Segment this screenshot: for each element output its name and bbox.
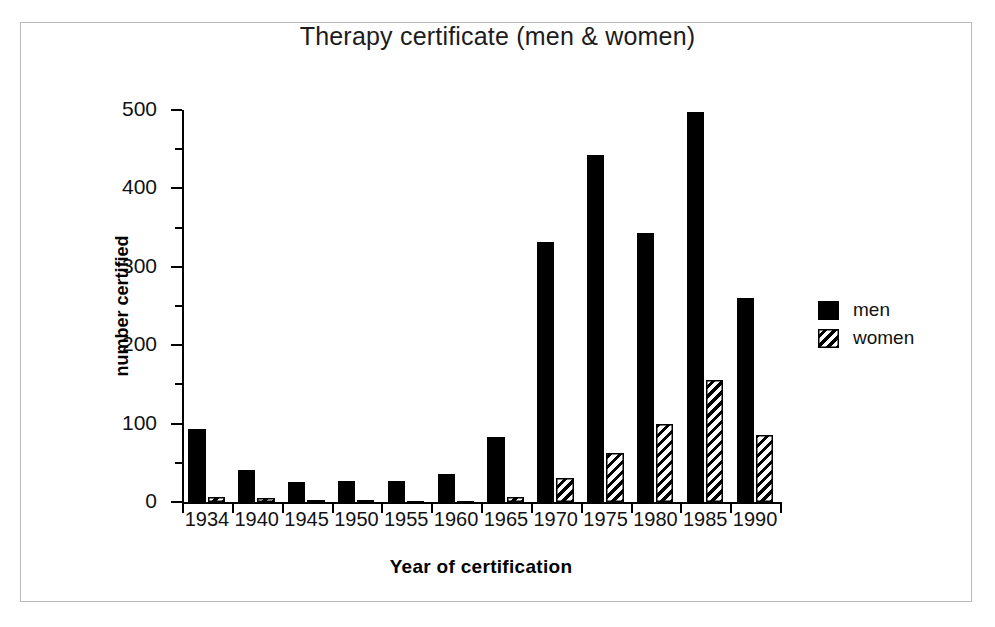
bar-women-1975[interactable] bbox=[606, 453, 623, 502]
bar-group bbox=[680, 110, 730, 502]
bar-men-1975[interactable] bbox=[587, 155, 604, 502]
bar-women-1934[interactable] bbox=[208, 497, 225, 502]
bar-women-1970[interactable] bbox=[556, 478, 573, 502]
x-axis-tick-label: 1940 bbox=[235, 508, 280, 531]
legend-swatch-women bbox=[818, 329, 839, 348]
bar-men-1980[interactable] bbox=[637, 233, 654, 502]
bar-group bbox=[581, 110, 631, 502]
y-axis-minor-tick bbox=[175, 227, 182, 229]
y-axis-tick: 200 bbox=[171, 344, 182, 346]
x-axis-tick-labels: 1934194019451950195519601965197019751980… bbox=[182, 508, 780, 534]
x-axis-tick-label: 1960 bbox=[434, 508, 479, 531]
x-axis-tick-label: 1955 bbox=[384, 508, 429, 531]
bar-women-1945[interactable] bbox=[307, 500, 324, 502]
x-axis-tick-label: 1985 bbox=[683, 508, 728, 531]
bar-group bbox=[481, 110, 531, 502]
bar-group bbox=[182, 110, 232, 502]
bar-women-1985[interactable] bbox=[706, 380, 723, 502]
x-axis-tick-label: 1975 bbox=[583, 508, 628, 531]
bar-men-1985[interactable] bbox=[687, 112, 704, 502]
bar-group bbox=[531, 110, 581, 502]
chart-title: Therapy certificate (men & women) bbox=[0, 22, 995, 51]
x-axis-tick-label: 1934 bbox=[185, 508, 230, 531]
chart-legend: menwomen bbox=[818, 296, 914, 352]
legend-entry-women[interactable]: women bbox=[818, 324, 914, 352]
x-axis-tick-label: 1970 bbox=[534, 508, 579, 531]
bar-women-1965[interactable] bbox=[507, 497, 524, 502]
bar-men-1934[interactable] bbox=[188, 429, 205, 502]
bar-men-1955[interactable] bbox=[388, 481, 405, 502]
legend-label: women bbox=[853, 327, 914, 349]
y-axis-tick: 0 bbox=[171, 501, 182, 503]
bar-group bbox=[631, 110, 681, 502]
bar-men-1940[interactable] bbox=[238, 470, 255, 502]
y-axis-tick: 500 bbox=[171, 109, 182, 111]
x-axis-tick-label: 1990 bbox=[733, 508, 778, 531]
bar-men-1965[interactable] bbox=[487, 437, 504, 502]
y-axis-minor-tick bbox=[175, 383, 182, 385]
legend-label: men bbox=[853, 299, 890, 321]
y-axis-tick: 100 bbox=[171, 423, 182, 425]
bar-men-1950[interactable] bbox=[338, 481, 355, 502]
bar-group bbox=[431, 110, 481, 502]
y-axis-minor-tick bbox=[175, 305, 182, 307]
x-axis-tick bbox=[780, 502, 782, 513]
bar-men-1970[interactable] bbox=[537, 242, 554, 502]
bar-group bbox=[232, 110, 282, 502]
y-axis-tick-label: 400 bbox=[122, 175, 157, 199]
y-axis-title: number certified bbox=[112, 235, 133, 376]
x-axis-tick-label: 1965 bbox=[484, 508, 529, 531]
bar-group bbox=[381, 110, 431, 502]
y-axis-tick: 400 bbox=[171, 187, 182, 189]
bar-men-1945[interactable] bbox=[288, 482, 305, 502]
bar-women-1960[interactable] bbox=[457, 501, 474, 503]
y-axis-tick-label: 100 bbox=[122, 410, 157, 434]
bar-women-1950[interactable] bbox=[357, 500, 374, 502]
x-axis-title: Year of certification bbox=[182, 556, 780, 578]
bar-women-1980[interactable] bbox=[656, 424, 673, 502]
bar-women-1990[interactable] bbox=[756, 435, 773, 502]
legend-swatch-men bbox=[818, 301, 839, 320]
bar-men-1960[interactable] bbox=[438, 474, 455, 502]
y-axis-minor-tick bbox=[175, 148, 182, 150]
x-axis-tick-label: 1945 bbox=[284, 508, 329, 531]
plot-area: 0100200300400500 bbox=[182, 110, 780, 502]
bar-women-1955[interactable] bbox=[407, 501, 424, 503]
x-axis-tick-label: 1980 bbox=[633, 508, 678, 531]
bar-group bbox=[332, 110, 382, 502]
y-axis-minor-tick bbox=[175, 462, 182, 464]
legend-entry-men[interactable]: men bbox=[818, 296, 914, 324]
y-axis-tick: 300 bbox=[171, 266, 182, 268]
bar-group bbox=[282, 110, 332, 502]
y-axis-tick-label: 0 bbox=[145, 489, 157, 513]
y-axis-tick-label: 500 bbox=[122, 97, 157, 121]
x-axis-tick-label: 1950 bbox=[334, 508, 379, 531]
bar-men-1990[interactable] bbox=[737, 298, 754, 502]
bar-group bbox=[730, 110, 780, 502]
bar-women-1940[interactable] bbox=[257, 498, 274, 502]
